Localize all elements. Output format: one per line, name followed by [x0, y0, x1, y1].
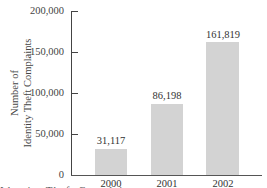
bar-2001: [151, 104, 183, 175]
bar-2002: [206, 42, 239, 175]
y-tick-100000: [71, 93, 78, 94]
y-tick-200000: [71, 11, 78, 12]
y-tick-label-100000: 100,000: [0, 87, 64, 99]
bar-value-2000: 31,117: [81, 135, 141, 147]
bar-value-2002: 161,819: [193, 29, 253, 41]
bar-2000: [95, 149, 127, 175]
y-tick-150000: [71, 52, 78, 53]
y-tick-label-50000: 50,000: [0, 128, 64, 140]
bar-value-2001: 86,198: [137, 90, 197, 102]
x-label-2002: 2002: [193, 178, 253, 188]
x-axis-line: [71, 175, 262, 176]
y-tick-label-0: 0: [0, 169, 64, 181]
y-tick-50000: [71, 134, 78, 135]
bar-chart: Number of Identity Theft Complaints 200,…: [0, 0, 267, 188]
x-label-2001: 2001: [137, 178, 197, 188]
figure-caption: Identity Theft Complaints: [0, 184, 139, 188]
y-tick-label-200000: 200,000: [0, 5, 64, 17]
y-tick-label-150000: 150,000: [0, 46, 64, 58]
